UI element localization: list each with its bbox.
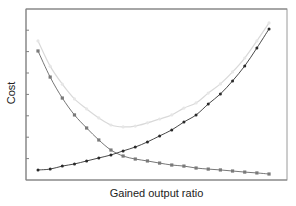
data-point-marker [97, 156, 100, 159]
data-point-marker [61, 83, 64, 86]
data-point-marker [268, 27, 271, 30]
data-point-marker [146, 159, 149, 162]
data-point-marker [49, 65, 52, 68]
data-point-marker [255, 171, 258, 174]
data-point-marker [61, 96, 64, 99]
series-line [38, 29, 269, 170]
data-point-marker [109, 148, 112, 151]
data-point-marker [134, 124, 137, 127]
data-point-marker [170, 163, 173, 166]
data-point-marker [219, 92, 222, 95]
data-point-marker [61, 165, 64, 168]
data-point-marker [158, 161, 161, 164]
data-point-marker [134, 157, 137, 160]
data-point-marker [195, 113, 198, 116]
data-point-marker [146, 121, 149, 124]
y-axis-label: Cost [5, 76, 17, 110]
data-point-marker [49, 75, 52, 78]
series-increasing-cost [37, 27, 271, 171]
data-point-marker [36, 39, 39, 42]
data-point-marker [73, 97, 76, 100]
data-point-marker [267, 172, 270, 175]
data-point-marker [73, 162, 76, 165]
data-point-marker [37, 168, 40, 171]
x-axis-label: Gained output ratio [26, 187, 287, 199]
data-point-marker [158, 134, 161, 137]
data-point-marker [170, 128, 173, 131]
data-point-marker [267, 21, 270, 24]
series-line [38, 23, 269, 127]
data-point-marker [231, 79, 234, 82]
data-point-marker [122, 125, 125, 128]
data-point-marker [122, 154, 125, 157]
plot-frame [26, 9, 287, 180]
data-point-marker [49, 168, 52, 171]
data-point-marker [207, 92, 210, 95]
data-point-marker [194, 101, 197, 104]
data-point-marker [158, 117, 161, 120]
data-point-marker [73, 113, 76, 116]
data-point-marker [182, 106, 185, 109]
data-point-marker [207, 167, 210, 170]
data-point-marker [219, 82, 222, 85]
data-point-marker [207, 103, 210, 106]
data-point-marker [109, 123, 112, 126]
data-point-marker [97, 116, 100, 119]
data-point-marker [85, 126, 88, 129]
data-point-marker [182, 121, 185, 124]
series-layer [36, 21, 270, 175]
data-point-marker [219, 168, 222, 171]
data-point-marker [243, 170, 246, 173]
data-point-marker [109, 153, 112, 156]
data-point-marker [122, 149, 125, 152]
data-point-marker [170, 113, 173, 116]
data-point-marker [146, 140, 149, 143]
data-point-marker [134, 146, 137, 149]
series-total-cost [36, 21, 270, 128]
data-point-marker [231, 169, 234, 172]
data-point-marker [36, 49, 39, 52]
data-point-marker [243, 64, 246, 67]
cost-chart [0, 0, 296, 206]
data-point-marker [231, 70, 234, 73]
data-point-marker [85, 159, 88, 162]
data-point-marker [182, 164, 185, 167]
data-point-marker [243, 56, 246, 59]
data-point-marker [255, 46, 258, 49]
data-point-marker [85, 107, 88, 110]
data-point-marker [194, 166, 197, 169]
data-point-marker [97, 138, 100, 141]
data-point-marker [255, 39, 258, 42]
